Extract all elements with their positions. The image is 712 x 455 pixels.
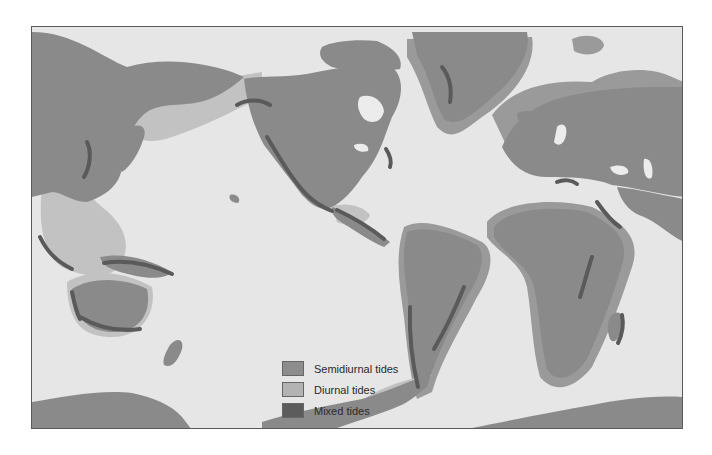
land-new-zealand xyxy=(163,340,182,366)
legend-swatch-mixed xyxy=(282,403,304,418)
land-antarctica-west xyxy=(32,392,192,429)
land-hawaii xyxy=(229,195,239,203)
legend-label: Mixed tides xyxy=(314,405,370,417)
semidiurnal-band-svalbard xyxy=(572,36,604,55)
legend-item-diurnal: Diurnal tides xyxy=(282,379,398,400)
legend-item-semidiurnal: Semidiurnal tides xyxy=(282,358,398,379)
mixed-coast-new-england xyxy=(386,149,391,167)
mixed-coast-mediterranean xyxy=(557,180,577,184)
world-tide-map: Semidiurnal tides Diurnal tides Mixed ti… xyxy=(31,26,683,429)
land-africa xyxy=(494,209,624,378)
legend-label: Diurnal tides xyxy=(314,384,375,396)
land-antarctica-east xyxy=(462,396,683,429)
land-canadian-arctic xyxy=(320,40,401,71)
legend-swatch-diurnal xyxy=(282,382,304,397)
legend-label: Semidiurnal tides xyxy=(314,363,398,375)
legend: Semidiurnal tides Diurnal tides Mixed ti… xyxy=(282,358,398,421)
legend-item-mixed: Mixed tides xyxy=(282,400,398,421)
legend-swatch-semidiurnal xyxy=(282,361,304,376)
